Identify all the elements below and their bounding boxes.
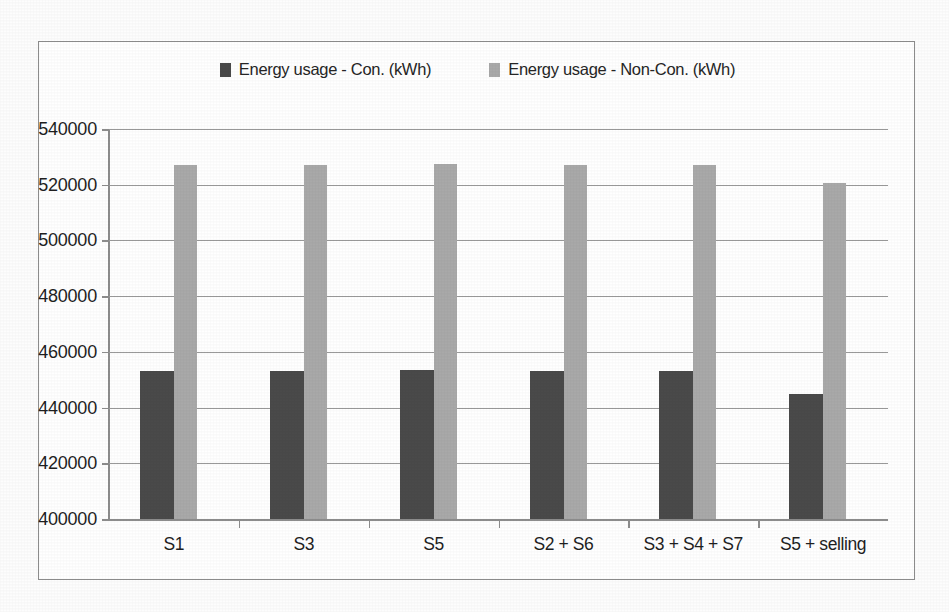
- y-axis-tick-label: 400000: [38, 509, 107, 530]
- bar-noncon: [823, 183, 846, 519]
- bar-con: [530, 371, 564, 519]
- category-tick-marks: [109, 519, 888, 529]
- category-label: S5: [423, 534, 444, 555]
- y-axis-tick-label: 460000: [38, 341, 107, 362]
- category-tick: [628, 519, 630, 528]
- bar-con: [270, 371, 304, 519]
- legend-entry-con: Energy usage - Con. (kWh): [220, 60, 431, 79]
- bar-con: [400, 370, 434, 519]
- energy-usage-bar-chart: Energy usage - Con. (kWh) Energy usage -…: [0, 0, 949, 612]
- category-label: S1: [164, 534, 185, 555]
- legend-label-con: Energy usage - Con. (kWh): [239, 60, 431, 79]
- chart-legend: Energy usage - Con. (kWh) Energy usage -…: [39, 60, 916, 79]
- chart-frame: Energy usage - Con. (kWh) Energy usage -…: [38, 41, 915, 580]
- plot-area: 5400005200005000004800004600004400004200…: [109, 129, 888, 519]
- category-label: S3: [293, 534, 314, 555]
- category-axis-labels: S1S3S5S2 + S6S3 + S4 + S7S5 + selling: [109, 534, 888, 574]
- category-tick: [239, 519, 241, 528]
- bar-noncon: [564, 165, 587, 519]
- y-axis-tick-label: 480000: [38, 286, 107, 307]
- legend-swatch-noncon: [489, 63, 500, 77]
- bar-con: [789, 394, 823, 519]
- y-axis-tick-label: 440000: [38, 397, 107, 418]
- category-label: S3 + S4 + S7: [644, 534, 743, 555]
- legend-entry-noncon: Energy usage - Non-Con. (kWh): [489, 60, 735, 79]
- category-tick: [499, 519, 501, 528]
- category-label: S5 + selling: [780, 534, 866, 555]
- y-axis-tick-label: 500000: [38, 230, 107, 251]
- bar-con: [659, 371, 693, 519]
- bars-layer: [109, 129, 888, 519]
- y-axis-tick-label: 520000: [38, 174, 107, 195]
- bar-noncon: [693, 165, 716, 519]
- bar-con: [140, 371, 174, 519]
- bar-noncon: [304, 165, 327, 519]
- bar-noncon: [174, 165, 197, 519]
- category-tick: [758, 519, 760, 528]
- y-axis-tick-mark: [102, 519, 109, 521]
- legend-swatch-con: [220, 63, 231, 77]
- bar-noncon: [434, 164, 457, 519]
- y-axis-tick-label: 540000: [38, 119, 107, 140]
- legend-label-noncon: Energy usage - Non-Con. (kWh): [508, 60, 735, 79]
- y-axis-tick-label: 420000: [38, 453, 107, 474]
- category-tick: [369, 519, 371, 528]
- category-label: S2 + S6: [533, 534, 593, 555]
